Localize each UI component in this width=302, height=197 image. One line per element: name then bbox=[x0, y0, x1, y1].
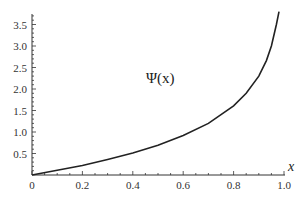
y-tick-label: 0.5 bbox=[13, 148, 27, 160]
psi-curve bbox=[32, 12, 279, 175]
x-tick-label: 0.8 bbox=[227, 179, 241, 191]
y-tick-label: 2.0 bbox=[13, 83, 27, 95]
y-axis-ticks: 0.51.01.52.02.53.03.5 bbox=[13, 16, 36, 171]
chart: 0.51.01.52.02.53.03.5 00.20.40.60.81.0 x… bbox=[0, 0, 302, 197]
x-tick-label: 1.0 bbox=[277, 179, 291, 191]
y-tick-label: 1.5 bbox=[13, 105, 27, 117]
x-tick-label: 0.2 bbox=[76, 179, 90, 191]
x-tick-label: 0 bbox=[29, 179, 35, 191]
curve-annotation: Ψ(x) bbox=[146, 70, 175, 87]
y-tick-label: 1.0 bbox=[13, 126, 27, 138]
y-tick-label: 3.5 bbox=[13, 19, 27, 31]
y-tick-label: 2.5 bbox=[13, 62, 27, 74]
x-tick-label: 0.6 bbox=[176, 179, 190, 191]
y-tick-label: 3.0 bbox=[13, 40, 27, 52]
x-tick-label: 0.4 bbox=[126, 179, 140, 191]
x-axis-label: x bbox=[287, 159, 295, 174]
x-axis-ticks: 00.20.40.60.81.0 bbox=[29, 171, 291, 191]
